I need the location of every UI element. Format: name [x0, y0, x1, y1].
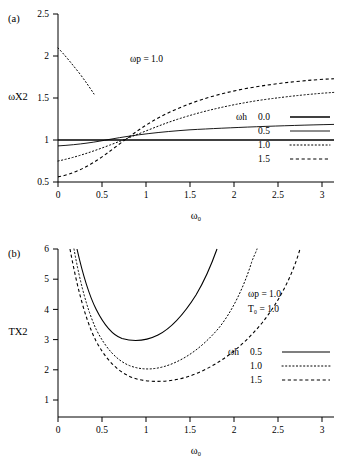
x-tick-b-2: 1 [144, 425, 149, 435]
y-axis-label-a: ωX2 [8, 91, 28, 102]
y-tick-b-0: 1 [44, 395, 49, 405]
x-tick-b-6: 3 [320, 425, 325, 435]
x-tick-a-5: 2.5 [272, 190, 284, 200]
x-tick-a-3: 1.5 [184, 190, 196, 200]
panel-a: (a) 0 0.5 1 1.5 2 2.5 3 0 [0, 0, 356, 235]
curve-a-wh-05 [58, 124, 334, 145]
x-ticks-a: 0 0.5 1 1.5 2 2.5 3 [56, 182, 325, 200]
panel-a-tag: (a) [8, 13, 20, 25]
x-tick-b-5: 2.5 [272, 425, 284, 435]
legend-a-label-2: 1.0 [258, 140, 270, 150]
legend-b: ωh 0.5 1.0 1.5 [228, 347, 330, 385]
x-tick-a-4: 2 [232, 190, 237, 200]
y-tick-b-2: 3 [44, 335, 49, 345]
x-tick-b-1: 0.5 [96, 425, 108, 435]
curve-a-wh-10 [58, 92, 334, 161]
y-axis-label-a-text: ωX2 [8, 91, 28, 102]
x-tick-b-3: 1.5 [184, 425, 196, 435]
panel-b: (b) 0 0.5 1 1.5 2 2.5 3 [0, 235, 356, 470]
x-tick-b-4: 2 [232, 425, 237, 435]
y-ticks-a: 0.5 1 1.5 2 2.5 [37, 9, 58, 187]
legend-b-label-1: 1.0 [250, 361, 262, 371]
legend-b-title: ωh [228, 347, 239, 357]
legend-b-label-0: 0.5 [250, 347, 262, 357]
annotation-a: ωp = 1.0 [130, 54, 163, 64]
x-tick-a-2: 1 [144, 190, 149, 200]
legend-b-label-2: 1.5 [250, 375, 262, 385]
x-tick-a-6: 3 [320, 190, 325, 200]
x-tick-a-1: 0.5 [96, 190, 108, 200]
x-axis-label-b: ω₀ [191, 445, 202, 456]
chart-b-svg: (b) 0 0.5 1 1.5 2 2.5 3 [0, 235, 356, 470]
x-tick-b-0: 0 [56, 425, 61, 435]
y-tick-b-3: 4 [44, 305, 49, 315]
panel-b-tag: (b) [8, 248, 21, 260]
chart-a-svg: (a) 0 0.5 1 1.5 2 2.5 3 0 [0, 0, 356, 235]
curve-b-wh-15 [70, 249, 300, 381]
legend-a-title: ωh [236, 112, 247, 122]
y-tick-b-4: 5 [44, 274, 49, 284]
legend-a: ωh 0.0 0.5 1.0 1.5 [236, 112, 330, 164]
legend-a-label-0: 0.0 [258, 112, 270, 122]
y-tick-b-1: 2 [44, 365, 49, 375]
y-ticks-b: 1 2 3 4 5 6 [44, 244, 58, 405]
curve-b-wh-05 [77, 249, 217, 341]
y-tick-a-3: 2 [44, 51, 49, 61]
annotation-b-1: ωp = 1.0 [248, 289, 281, 299]
x-axis-label-a: ω₀ [191, 210, 202, 221]
x-ticks-b: 0 0.5 1 1.5 2 2.5 3 [56, 417, 325, 435]
legend-a-label-3: 1.5 [258, 154, 270, 164]
y-tick-b-5: 6 [44, 244, 49, 254]
y-tick-a-4: 2.5 [37, 9, 49, 19]
y-axis-label-b: TX2 [8, 326, 27, 337]
x-tick-a-0: 0 [56, 190, 61, 200]
curve-a-wh-15 [58, 79, 334, 177]
y-tick-a-1: 1 [44, 135, 49, 145]
curve-a-upper-branch [58, 48, 94, 94]
y-tick-a-0: 0.5 [37, 177, 49, 187]
legend-a-label-1: 0.5 [258, 126, 270, 136]
y-tick-a-2: 1.5 [37, 93, 49, 103]
